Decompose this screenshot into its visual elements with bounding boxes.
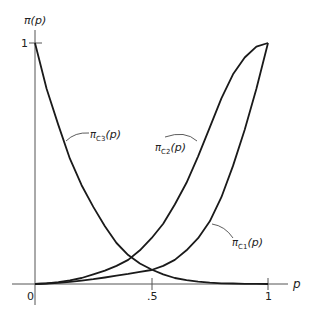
x-tick-label-1: 1 <box>265 290 272 303</box>
leader-arrow-c3 <box>66 133 89 141</box>
probability-chart: π(p) p 1 0 .5 1 πC3(p) πC2(p) πC1(p) <box>0 0 312 320</box>
leader-arrow-c1 <box>212 224 233 238</box>
label-pi-c3: πC3(p) <box>90 128 121 143</box>
y-tick-label-1: 1 <box>21 37 28 50</box>
label-pi-c2: πC2(p) <box>155 141 186 156</box>
x-axis-label: p <box>292 277 301 291</box>
x-tick-label-half: .5 <box>147 290 158 303</box>
leader-arrow-c2 <box>165 134 197 141</box>
y-axis-label: π(p) <box>24 14 46 27</box>
label-pi-c1: πC1(p) <box>232 236 263 251</box>
x-tick-label-0: 0 <box>27 290 34 303</box>
